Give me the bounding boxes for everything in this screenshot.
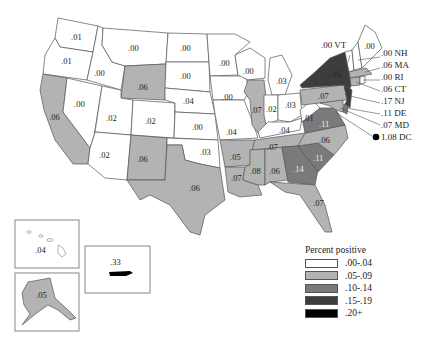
legend: Percent positive .00-.04 .05-.09 .10-.14… (305, 245, 372, 320)
callout-NJ: .17 NJ (381, 96, 405, 106)
label-MI: .03 (276, 76, 287, 86)
label-OH: .03 (285, 100, 296, 110)
label-ND: .00 (180, 43, 191, 53)
state-DE (343, 104, 348, 114)
label-CA: .06 (49, 112, 60, 122)
label-IN: .02 (266, 104, 277, 114)
label-CO: .02 (145, 116, 156, 126)
label-OK: .03 (200, 147, 211, 157)
legend-swatch (305, 271, 338, 280)
label-NM: .06 (137, 154, 148, 164)
legend-title: Percent positive (305, 245, 372, 255)
label-FL: .07 (313, 198, 324, 208)
legend-label: .15-.19 (345, 296, 372, 306)
legend-row: .00-.04 (305, 257, 372, 270)
legend-row: .05-.09 (305, 270, 372, 283)
label-SD: .00 (180, 71, 191, 81)
label-AL: .06 (269, 166, 280, 176)
label-GA: .14 (293, 164, 304, 174)
callout-CT: .06 CT (381, 84, 407, 94)
label-TN: .07 (267, 142, 278, 152)
callout-DE: .11 DE (381, 108, 407, 118)
label-KY: .04 (279, 125, 290, 135)
legend-row: .20+ (305, 307, 372, 320)
label-PA: .07 (318, 91, 329, 101)
label-WI: .00 (243, 66, 254, 76)
label-ID: .00 (94, 68, 105, 78)
legend-swatch (305, 296, 338, 305)
label-OR: .01 (61, 56, 72, 66)
callout-VT: .00 VT (321, 40, 347, 50)
hawaii-island (47, 239, 53, 242)
callout-MD: .07 MD (381, 120, 410, 130)
callout-DC: 1.08 DC (381, 132, 412, 142)
state-CT (350, 77, 360, 86)
label-LA: .07 (231, 173, 242, 183)
label-ME: .00 (364, 41, 375, 51)
legend-swatch (305, 284, 338, 293)
callout-RI: .00 RI (381, 72, 404, 82)
label-WA: .01 (71, 32, 82, 42)
label-AR: .05 (230, 152, 241, 162)
label-KS: .00 (192, 122, 203, 132)
label-MS: .08 (250, 166, 261, 176)
label-NC: .06 (319, 135, 330, 145)
callout-MA: .06 MA (381, 60, 410, 70)
label-IA: .00 (222, 92, 233, 102)
label-AZ: .02 (99, 150, 110, 160)
leader-CT (356, 82, 380, 91)
label-NV: .00 (74, 99, 85, 109)
dc-marker-icon (373, 134, 380, 141)
leader-DE (346, 108, 380, 114)
legend-label: .10-.14 (345, 283, 372, 293)
legend-label: .00-.04 (345, 258, 372, 268)
legend-swatch (305, 309, 338, 318)
label-SC: .11 (313, 153, 323, 163)
hawaii-island (39, 235, 43, 238)
legend-label: .05-.09 (345, 271, 372, 281)
inset-puerto-rico (85, 246, 150, 293)
label-VA: .11 (319, 119, 329, 129)
label-IL: .07 (251, 105, 262, 115)
label-WY: .06 (137, 82, 148, 92)
callout-NH: .00 NH (381, 48, 408, 58)
label-AK: .05 (36, 290, 47, 300)
legend-row: .10-.14 (305, 282, 372, 295)
label-WV: .01 (303, 113, 314, 123)
leader-NJ (350, 96, 380, 103)
state-MI (268, 55, 292, 95)
inset-hawaii (15, 220, 79, 268)
legend-row: .15-.19 (305, 295, 372, 308)
label-MN: .00 (219, 58, 230, 68)
legend-label: .20+ (345, 308, 362, 318)
label-PR: .33 (110, 257, 121, 267)
label-NE: .04 (183, 96, 194, 106)
label-UT: .02 (106, 113, 117, 123)
label-MO: .04 (226, 127, 237, 137)
label-NY: .16 (330, 69, 341, 79)
label-TX: .06 (189, 183, 200, 193)
label-MT: .00 (128, 43, 139, 53)
hawaii-island (27, 231, 31, 234)
label-HI: .04 (35, 245, 46, 255)
legend-swatch (305, 259, 338, 268)
